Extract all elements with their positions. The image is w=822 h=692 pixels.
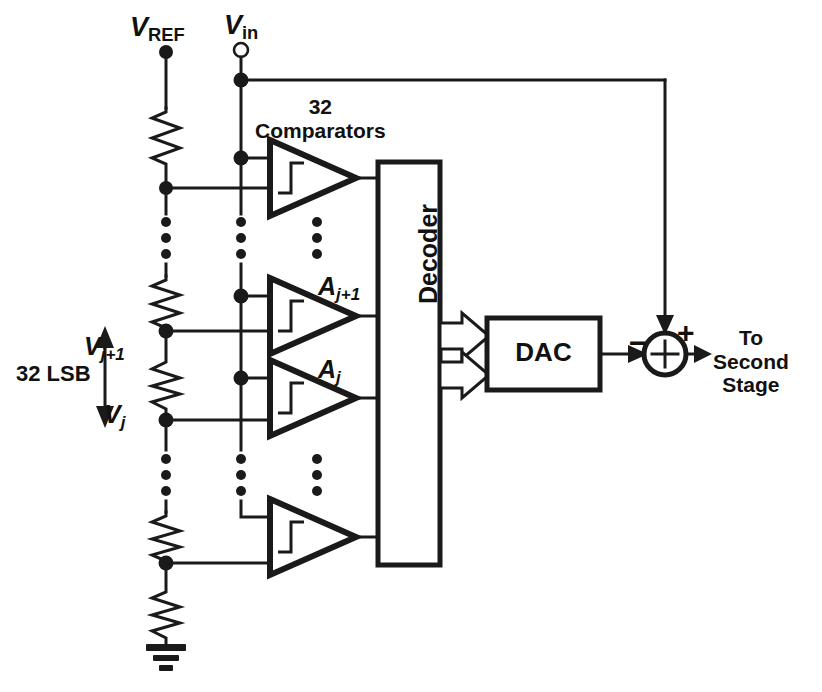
v-j-label: Vj — [104, 400, 125, 432]
vin-wire-bottom-bend — [241, 501, 270, 517]
amp-j-plus-1-subscript: j+1 — [336, 285, 360, 304]
ellipsis-dot — [236, 233, 246, 243]
vin-symbol: V — [224, 10, 242, 40]
ellipsis-dot — [236, 486, 246, 496]
comparator-top[interactable] — [166, 140, 378, 216]
flash-adc-block-diagram: VREF Vin 32 Comparators Aj+1 Aj Vj+1 Vj … — [0, 0, 822, 692]
ellipsis-dot — [236, 454, 246, 464]
decoder-label-text: Decoder — [414, 204, 442, 304]
output-label-line-1: To — [713, 326, 789, 350]
v-j-plus-1-label: Vj+1 — [84, 332, 125, 364]
amp-j-plus-1-label: Aj+1 — [318, 272, 360, 304]
resistor-5 — [152, 563, 180, 645]
ellipsis-dot — [161, 233, 171, 243]
output-destination-label: To Second Stage — [713, 326, 789, 397]
output-label-line-3: Stage — [713, 373, 789, 397]
v-j-plus-1-symbol: V — [84, 332, 101, 360]
vin-label: Vin — [224, 10, 258, 44]
v-j-subscript: j — [121, 413, 126, 432]
output-arrowhead — [694, 345, 712, 363]
ellipsis-upper-comparators — [312, 217, 322, 259]
sum-plus-sign: + — [677, 316, 695, 350]
resistor-1 — [152, 108, 180, 188]
amp-j-symbol: A — [318, 355, 336, 383]
comparators-count-word: Comparators — [255, 119, 386, 143]
ground-symbol — [146, 644, 186, 671]
resistor-2 — [152, 276, 180, 331]
vin-terminal-open-circle — [234, 43, 248, 57]
ellipsis-dot — [236, 217, 246, 227]
output-label-line-2: Second — [713, 350, 789, 374]
sum-minus-sign: − — [629, 326, 647, 360]
resistor-3 — [152, 331, 180, 420]
vin-subscript: in — [242, 22, 258, 43]
decoder-label: Decoder — [378, 240, 440, 268]
ellipsis-dot — [312, 249, 322, 259]
v-j-symbol: V — [104, 400, 121, 428]
ellipsis-dot — [312, 233, 322, 243]
decoder-to-dac-bus — [440, 313, 489, 398]
vref-symbol: V — [130, 12, 148, 42]
amp-j-subscript: j — [336, 368, 341, 387]
resistor-ladder — [146, 45, 186, 671]
lsb-span-label: 32 LSB — [16, 362, 91, 387]
amp-j-label: Aj — [318, 355, 341, 387]
vref-subscript: REF — [148, 24, 185, 45]
ellipsis-dot — [312, 470, 322, 480]
comparator-bottom-triangle[interactable] — [270, 499, 356, 575]
amp-j-plus-1-symbol: A — [318, 272, 336, 300]
comparators-count-number: 32 — [255, 95, 386, 119]
ellipsis-dot — [161, 217, 171, 227]
ellipsis-dot — [312, 454, 322, 464]
comparators-count-label: 32 Comparators — [255, 95, 386, 142]
ellipsis-dot — [161, 486, 171, 496]
ellipsis-dot — [236, 470, 246, 480]
dac-label: DAC — [487, 338, 600, 367]
bus-arrow-upper — [440, 313, 489, 359]
comparator-j-triangle[interactable] — [270, 360, 356, 436]
comparator-bottom[interactable] — [166, 499, 378, 575]
ellipsis-dot — [161, 470, 171, 480]
v-j-plus-1-subscript: j+1 — [101, 345, 125, 364]
ellipsis-lower-comparators — [312, 454, 322, 496]
ellipsis-dot — [236, 249, 246, 259]
ellipsis-dot — [161, 249, 171, 259]
ellipsis-dot — [312, 486, 322, 496]
bus-arrow-lower — [440, 352, 489, 398]
comparator-top-triangle[interactable] — [270, 140, 356, 216]
vref-label: VREF — [130, 12, 185, 46]
resistor-4 — [152, 512, 180, 563]
ellipsis-dot — [161, 454, 171, 464]
comparator-j[interactable] — [166, 360, 378, 436]
ellipsis-dot — [312, 217, 322, 227]
